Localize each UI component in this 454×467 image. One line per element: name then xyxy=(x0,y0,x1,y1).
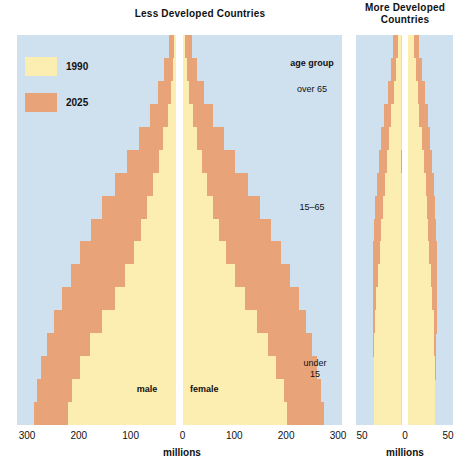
bar-female-1990 xyxy=(183,264,235,288)
x-axis-less-developed-tick: 200 xyxy=(266,430,306,441)
bar-female-1990 xyxy=(183,196,213,220)
bar-male-1990 xyxy=(102,310,176,334)
annotation-under-15-line1: under xyxy=(287,358,343,369)
x-axis-less-developed-tick: 100 xyxy=(111,430,151,441)
bar-female-1990 xyxy=(408,287,433,311)
x-axis-more-developed-tick: 0 xyxy=(385,430,425,441)
annotation-15-65: 15–65 xyxy=(281,202,343,212)
bar-female-1990 xyxy=(183,58,187,82)
legend-label-1990: 1990 xyxy=(66,61,88,72)
bar-male-1990 xyxy=(380,241,402,265)
bar-male-1990 xyxy=(68,402,176,425)
x-axis-less-developed-tick: 0 xyxy=(163,430,203,441)
bar-male-1990 xyxy=(385,173,401,197)
bar-female-1990 xyxy=(408,150,424,174)
bar-male-1990 xyxy=(125,264,176,288)
chart-title-more-developed-line2: Countries xyxy=(356,14,454,26)
bar-female-1990 xyxy=(408,219,429,243)
bar-male-1990 xyxy=(90,333,176,357)
bar-female-1990 xyxy=(408,81,418,105)
bar-male-1990 xyxy=(153,173,176,197)
bar-female-1990 xyxy=(408,173,426,197)
bar-female-1990 xyxy=(408,379,435,403)
bar-female-1990 xyxy=(408,333,434,357)
bar-male-1990 xyxy=(134,241,176,265)
x-axis-more-developed-tick: 50 xyxy=(342,430,382,441)
bar-female-1990 xyxy=(183,127,197,151)
x-axis-title-more-developed: millions xyxy=(365,447,445,458)
plot-area-more-developed xyxy=(356,35,453,425)
bar-female-1990 xyxy=(183,241,226,265)
bar-female-1990 xyxy=(408,310,434,334)
bar-male-1990 xyxy=(159,150,176,174)
annotation-under-15-line2: 15 xyxy=(287,369,343,380)
bar-female-1990 xyxy=(408,264,432,288)
bar-male-1990 xyxy=(168,104,176,128)
center-axis-divider xyxy=(402,35,408,425)
bar-male-1990 xyxy=(387,150,402,174)
chart-title-more-developed: More Developed Countries xyxy=(356,2,454,26)
bar-female-1990 xyxy=(408,196,427,220)
bar-female-1990 xyxy=(183,173,207,197)
legend-swatch-1990 xyxy=(25,57,57,76)
bar-female-1990 xyxy=(183,35,185,59)
bar-female-1990 xyxy=(183,356,276,380)
bar-male-1990 xyxy=(378,264,402,288)
bar-male-1990 xyxy=(147,196,176,220)
bar-male-1990 xyxy=(375,310,401,334)
x-axis-title-less-developed: millions xyxy=(142,447,222,458)
bar-male-1990 xyxy=(374,333,401,357)
bar-male-1990 xyxy=(374,402,401,425)
bar-female-1990 xyxy=(408,58,416,82)
bar-female-1990 xyxy=(183,333,268,357)
bar-female-1990 xyxy=(408,127,423,151)
legend-label-2025: 2025 xyxy=(66,97,88,108)
x-axis-less-developed-tick: 300 xyxy=(7,430,47,441)
bar-female-1990 xyxy=(408,356,435,380)
bar-male-1990 xyxy=(376,287,401,311)
bar-male-1990 xyxy=(374,379,401,403)
x-axis-less-developed-tick: 100 xyxy=(214,430,254,441)
bar-male-1990 xyxy=(389,127,402,151)
bar-female-1990 xyxy=(183,310,257,334)
bar-male-1990 xyxy=(391,104,401,128)
bar-female-1990 xyxy=(183,287,245,311)
annotation-male: male xyxy=(122,384,172,394)
x-axis-more-developed-tick: 50 xyxy=(428,430,454,441)
annotation-over-65: over 65 xyxy=(281,84,343,94)
bar-male-1990 xyxy=(141,219,176,243)
bar-male-1990 xyxy=(80,356,176,380)
annotation-under-15: under 15 xyxy=(287,358,343,380)
bar-female-1990 xyxy=(183,104,193,128)
bar-female-1990 xyxy=(408,241,430,265)
bar-female-1990 xyxy=(183,219,219,243)
population-pyramid-more-developed xyxy=(356,35,453,425)
bar-male-1990 xyxy=(381,219,401,243)
bar-male-1990 xyxy=(374,356,401,380)
bar-female-1990 xyxy=(183,81,189,105)
bar-male-1990 xyxy=(115,287,176,311)
legend-swatch-2025 xyxy=(25,93,57,112)
bar-male-1990 xyxy=(394,81,401,105)
bar-female-1990 xyxy=(408,402,435,425)
bar-female-1990 xyxy=(183,150,202,174)
chart-title-more-developed-line1: More Developed xyxy=(356,2,454,14)
annotation-female: female xyxy=(190,384,246,394)
bar-male-1990 xyxy=(383,196,401,220)
center-axis-divider xyxy=(176,35,183,425)
bar-female-1990 xyxy=(408,35,414,59)
bar-female-1990 xyxy=(183,402,287,425)
chart-title-less-developed: Less Developed Countries xyxy=(60,8,340,19)
annotation-age-group: age group xyxy=(281,58,343,68)
bar-female-1990 xyxy=(408,104,420,128)
bar-male-1990 xyxy=(163,127,176,151)
x-axis-less-developed-tick: 200 xyxy=(59,430,99,441)
